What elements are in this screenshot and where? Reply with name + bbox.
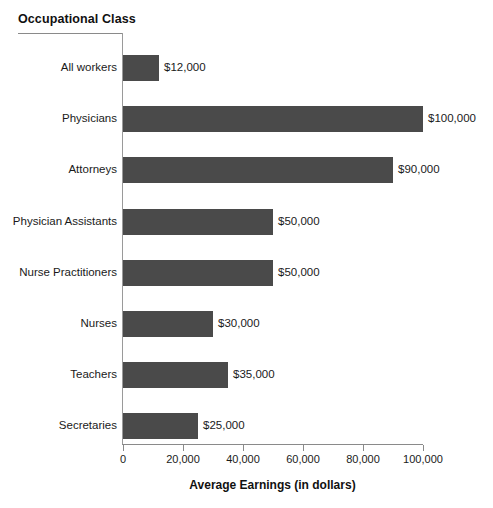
bar-category-label: Attorneys bbox=[68, 163, 117, 175]
bar bbox=[123, 55, 159, 81]
bar-value-label: $100,000 bbox=[428, 112, 476, 124]
x-axis-tick bbox=[423, 445, 424, 451]
x-axis-tick bbox=[123, 445, 124, 451]
x-axis-tick bbox=[363, 445, 364, 451]
bar bbox=[123, 362, 228, 388]
x-axis-tick-label: 20,000 bbox=[166, 453, 200, 465]
bar-category-label: All workers bbox=[61, 61, 117, 73]
x-axis-line bbox=[122, 444, 423, 445]
bar-row: Nurse Practitioners$50,000 bbox=[0, 260, 493, 286]
bar bbox=[123, 413, 198, 439]
x-axis-tick-label: 100,000 bbox=[403, 453, 443, 465]
bar-category-label: Nurses bbox=[81, 317, 117, 329]
bar-value-label: $90,000 bbox=[398, 163, 440, 175]
bar-row: All workers$12,000 bbox=[0, 55, 493, 81]
bar-value-label: $30,000 bbox=[218, 317, 260, 329]
bar-chart: Occupational Class All workers$12,000Phy… bbox=[0, 0, 493, 508]
bar-category-label: Nurse Practitioners bbox=[19, 266, 117, 278]
bar bbox=[123, 260, 273, 286]
bar-row: Physicians$100,000 bbox=[0, 106, 493, 132]
bar-value-label: $35,000 bbox=[233, 368, 275, 380]
x-axis-tick bbox=[243, 445, 244, 451]
bar-value-label: $50,000 bbox=[278, 215, 320, 227]
bar-category-label: Physician Assistants bbox=[13, 215, 117, 227]
bar-value-label: $25,000 bbox=[203, 419, 245, 431]
x-axis-title: Average Earnings (in dollars) bbox=[122, 478, 423, 492]
bar bbox=[123, 311, 213, 337]
bar-value-label: $50,000 bbox=[278, 266, 320, 278]
bar-category-label: Secretaries bbox=[59, 419, 117, 431]
bar-row: Attorneys$90,000 bbox=[0, 157, 493, 183]
x-axis-tick-label: 40,000 bbox=[226, 453, 260, 465]
category-axis-title: Occupational Class bbox=[18, 12, 136, 26]
bar-row: Teachers$35,000 bbox=[0, 362, 493, 388]
bar-row: Nurses$30,000 bbox=[0, 311, 493, 337]
bar-row: Physician Assistants$50,000 bbox=[0, 209, 493, 235]
category-axis-rule bbox=[18, 33, 122, 34]
bar-category-label: Teachers bbox=[70, 368, 117, 380]
bar bbox=[123, 106, 423, 132]
x-axis-tick-label: 80,000 bbox=[346, 453, 380, 465]
bar bbox=[123, 209, 273, 235]
bar bbox=[123, 157, 393, 183]
x-axis-tick bbox=[303, 445, 304, 451]
bar-category-label: Physicians bbox=[62, 112, 117, 124]
bar-value-label: $12,000 bbox=[164, 61, 206, 73]
bar-row: Secretaries$25,000 bbox=[0, 413, 493, 439]
x-axis-tick-label: 0 bbox=[120, 453, 126, 465]
x-axis-tick-label: 60,000 bbox=[286, 453, 320, 465]
x-axis-tick bbox=[183, 445, 184, 451]
